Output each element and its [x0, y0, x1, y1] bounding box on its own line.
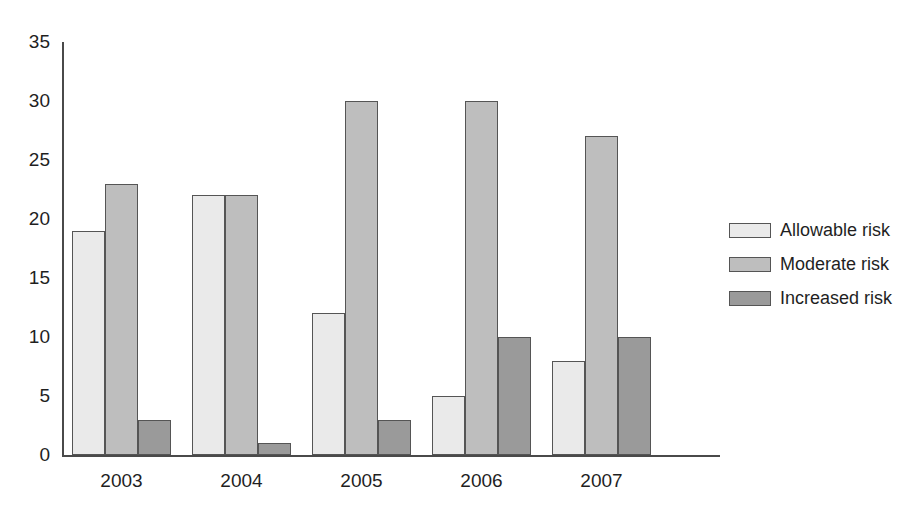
- legend-swatch-icon: [729, 257, 771, 272]
- y-tick-label: 10: [0, 327, 50, 346]
- legend-swatch-icon: [729, 291, 771, 306]
- chart-legend: Allowable riskModerate riskIncreased ris…: [729, 213, 892, 315]
- bar: [585, 136, 618, 455]
- bar: [192, 195, 225, 455]
- x-tick-label: 2003: [72, 470, 171, 492]
- bar: [258, 443, 291, 455]
- bar: [225, 195, 258, 455]
- legend-label: Increased risk: [780, 288, 892, 308]
- bar: [618, 337, 651, 455]
- legend-item: Increased risk: [729, 281, 892, 315]
- y-tick-label: 30: [0, 91, 50, 110]
- bar: [345, 101, 378, 455]
- bar: [72, 231, 105, 455]
- legend-item: Allowable risk: [729, 213, 892, 247]
- bar: [105, 184, 138, 455]
- x-tick-label: 2006: [432, 470, 531, 492]
- bar: [465, 101, 498, 455]
- x-tick-label: 2007: [552, 470, 651, 492]
- legend-label: Allowable risk: [780, 220, 890, 240]
- bar: [552, 361, 585, 455]
- x-tick-label: 2005: [312, 470, 411, 492]
- y-tick-label: 5: [0, 386, 50, 405]
- bar-chart: 05101520253035 20032004200520062007 Allo…: [0, 0, 918, 510]
- plot-area: [62, 42, 718, 455]
- y-tick-label: 20: [0, 209, 50, 228]
- y-tick-label: 15: [0, 268, 50, 287]
- bar: [378, 420, 411, 455]
- legend-label: Moderate risk: [780, 254, 889, 274]
- y-tick-label: 35: [0, 32, 50, 51]
- legend-swatch-icon: [729, 223, 771, 238]
- y-tick-label: 0: [0, 445, 50, 464]
- y-tick-label: 25: [0, 150, 50, 169]
- x-axis-line: [62, 455, 720, 457]
- x-tick-label: 2004: [192, 470, 291, 492]
- bar: [312, 313, 345, 455]
- bar: [432, 396, 465, 455]
- bar: [498, 337, 531, 455]
- legend-item: Moderate risk: [729, 247, 892, 281]
- bar: [138, 420, 171, 455]
